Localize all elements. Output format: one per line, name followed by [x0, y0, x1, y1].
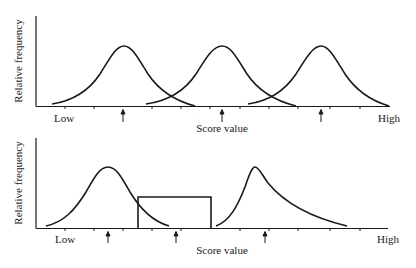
- arrow-up-icon: [106, 232, 110, 244]
- arrow-up-icon: [121, 110, 125, 123]
- top-mean-arrows: [121, 110, 323, 123]
- bottom-low-label: Low: [55, 233, 75, 245]
- bottom-x-axis-label: Score value: [196, 244, 248, 256]
- top-curve-1: [52, 46, 195, 106]
- arrow-up-icon: [263, 232, 267, 244]
- bottom-skewed-curve: [216, 167, 347, 226]
- bottom-mean-arrows: [106, 232, 267, 244]
- bottom-rectangular-distribution: [138, 197, 211, 228]
- bottom-y-axis-label: Relative frequency: [12, 141, 24, 225]
- top-high-label: High: [378, 112, 401, 124]
- top-curve-2: [146, 46, 296, 106]
- top-curve-3: [248, 46, 389, 106]
- top-panel: Relative frequency Low High Score value: [12, 16, 401, 134]
- bottom-panel: Relative frequency Low High Score value: [12, 138, 400, 256]
- arrow-up-icon: [174, 232, 178, 244]
- arrow-up-icon: [319, 110, 323, 123]
- distributions-figure: Relative frequency Low High Score value: [0, 0, 416, 268]
- top-low-label: Low: [54, 112, 74, 124]
- top-y-axis-label: Relative frequency: [12, 19, 24, 103]
- arrow-up-icon: [220, 110, 224, 123]
- bottom-high-label: High: [377, 233, 400, 245]
- top-x-axis-label: Score value: [196, 122, 248, 134]
